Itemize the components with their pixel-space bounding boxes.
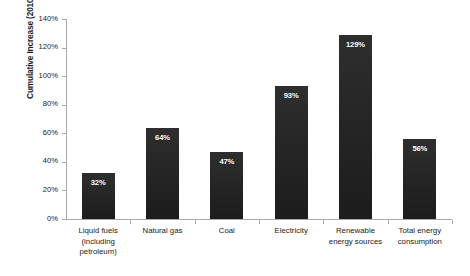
bar: 47% — [210, 152, 243, 219]
x-axis-tick-mark — [452, 220, 453, 224]
bar-chart: Cumulative Increase (2010 - 2040) 0%20%4… — [0, 0, 470, 276]
category-label-line: Electricity — [259, 226, 323, 237]
category-label-line: energy sources — [323, 237, 387, 248]
x-axis-category-label: Total energyconsumption — [388, 226, 452, 247]
bar-value-label: 56% — [403, 144, 436, 153]
bar-value-label: 64% — [146, 133, 179, 142]
y-axis-tick-label: 60% — [0, 129, 58, 137]
category-label-line: petroleum) — [66, 247, 130, 258]
y-axis-tick-label: 20% — [0, 186, 58, 194]
x-axis-category-label: Natural gas — [130, 226, 194, 237]
y-axis-tick-label: 140% — [0, 15, 58, 23]
y-axis-tick-label: 0% — [0, 215, 58, 223]
bar: 56% — [403, 139, 436, 219]
y-axis-line — [66, 19, 67, 219]
bar: 129% — [339, 35, 372, 219]
bar: 93% — [275, 86, 308, 219]
category-label-line: consumption — [388, 237, 452, 248]
y-axis-tick-label: 40% — [0, 157, 58, 165]
bar-value-label: 32% — [82, 178, 115, 187]
category-label-line: Total energy — [388, 226, 452, 237]
x-axis-category-label: Coal — [195, 226, 259, 237]
category-label-line: Liquid fuels — [66, 226, 130, 237]
x-axis-tick-mark — [323, 220, 324, 224]
y-axis-tick-label: 100% — [0, 72, 58, 80]
category-label-line: (including — [66, 237, 130, 248]
category-label-line: Natural gas — [130, 226, 194, 237]
bar: 64% — [146, 128, 179, 219]
bar-value-label: 47% — [210, 157, 243, 166]
category-label-line: Renewable — [323, 226, 387, 237]
x-axis-tick-mark — [130, 220, 131, 224]
x-axis-category-label: Liquid fuels(includingpetroleum) — [66, 226, 130, 258]
x-axis-tick-mark — [388, 220, 389, 224]
x-axis-category-label: Renewableenergy sources — [323, 226, 387, 247]
x-axis-tick-mark — [195, 220, 196, 224]
category-label-line: Coal — [195, 226, 259, 237]
bar-value-label: 93% — [275, 91, 308, 100]
bar: 32% — [82, 173, 115, 219]
bar-value-label: 129% — [339, 40, 372, 49]
x-axis-category-label: Electricity — [259, 226, 323, 237]
y-axis-tick-label: 120% — [0, 43, 58, 51]
x-axis-tick-mark — [259, 220, 260, 224]
y-axis-tick-label: 80% — [0, 100, 58, 108]
